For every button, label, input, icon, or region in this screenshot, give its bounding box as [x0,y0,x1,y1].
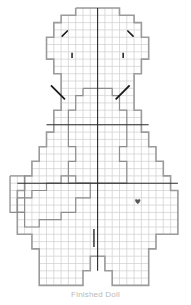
pattern-chart: Finished Doll [0,0,191,305]
decrease-left-top [62,31,67,36]
pattern-grid-svg [0,0,191,305]
decrease-right-top [128,31,133,36]
heart-marker [135,199,140,203]
decrease-right-long [116,85,130,99]
decrease-left-long [51,85,65,99]
chart-caption: Finished Doll [0,290,191,301]
